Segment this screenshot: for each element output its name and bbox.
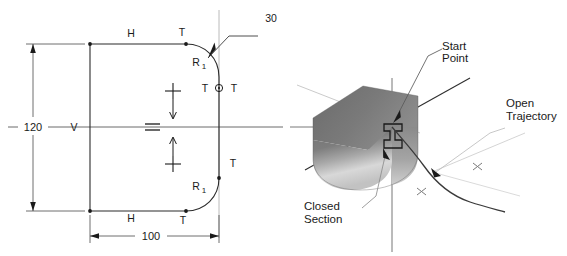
vertex-dot-top-right	[184, 42, 188, 46]
vertical-dimension-value: 120	[24, 121, 42, 133]
vertex-dot-top-left	[88, 42, 92, 46]
closed-section-label-line1: Closed	[304, 200, 340, 212]
vertex-dot-bottom-left	[88, 209, 92, 213]
closed-section-label-line2: Section	[304, 213, 342, 225]
figure-background	[0, 0, 567, 256]
technical-drawing-figure: H H V T T T T T R 1 R 1	[0, 0, 567, 256]
constraint-label-t-bottom: T	[180, 214, 187, 226]
radius-label-upper-subscript: 1	[202, 62, 207, 71]
radius-label-lower-subscript: 1	[202, 186, 207, 195]
start-point-label-line2: Point	[442, 52, 469, 64]
constraint-label-h-top: H	[127, 27, 135, 39]
constraint-label-t-lower-right: T	[230, 157, 237, 169]
start-point-label-line1: Start	[442, 40, 467, 52]
vertex-dot-right-lower	[217, 176, 221, 180]
vertex-dot-bottom-right	[184, 209, 188, 213]
constraint-label-h-bottom: H	[127, 212, 135, 224]
open-trajectory-label-line1: Open	[506, 97, 534, 109]
constraint-label-t-top: T	[179, 26, 186, 38]
constraint-label-t-mid-left: T	[202, 82, 209, 94]
horizontal-dimension-value: 100	[142, 230, 160, 242]
open-trajectory-label-line2: Trajectory	[506, 110, 557, 122]
radius-label-lower-r: R	[192, 180, 200, 192]
radius-label-upper-r: R	[192, 56, 200, 68]
constraint-label-v-left: V	[70, 121, 77, 133]
radius-callout-value: 30	[265, 12, 277, 24]
constraint-label-t-mid-right: T	[231, 82, 238, 94]
tangency-node-dot	[218, 87, 220, 89]
